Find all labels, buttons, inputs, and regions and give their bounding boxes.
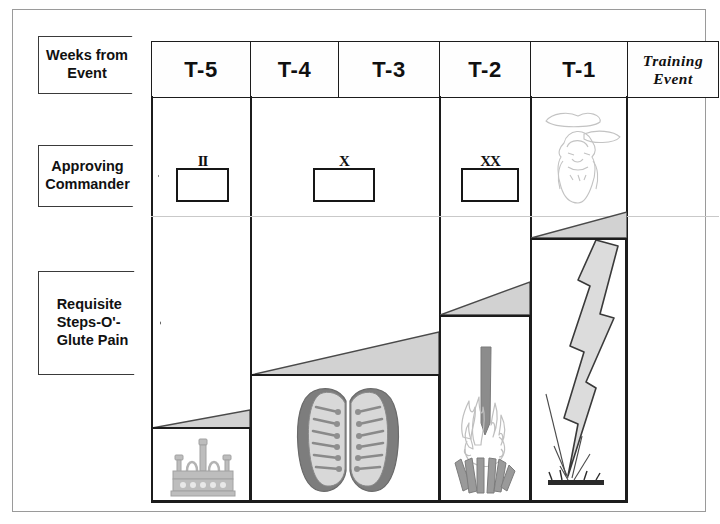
- row-label-approving-text: Approving Commander: [45, 158, 152, 193]
- row-label-weeks-from-event: Weeks from Event: [38, 36, 158, 94]
- commander-insignia-t2: XX: [461, 153, 519, 170]
- deity-in-clouds-sketch-icon: [534, 101, 624, 213]
- column-header-t1-label: T-1: [562, 57, 595, 83]
- page-frame: Weeks from Event Approving Commander Req…: [12, 9, 706, 512]
- matrix-header-row: T-5 T-4 T-3 T-2 T-1 Training Event: [151, 41, 719, 98]
- ramp-wedge-t2: [440, 281, 530, 316]
- column-header-t4: T-4: [250, 41, 339, 98]
- step-image-box-t2: [439, 315, 531, 502]
- column-header-training-event-label: Training Event: [643, 52, 703, 88]
- column-header-t2: T-2: [439, 41, 531, 98]
- column-header-t1: T-1: [530, 41, 628, 98]
- candelabra-icon: [167, 437, 239, 499]
- column-header-t2-label: T-2: [468, 57, 501, 83]
- row-label-requisite-steps: Requisite Steps-O'- Glute Pain: [38, 271, 161, 375]
- row-label-approving-commander: Approving Commander: [38, 145, 159, 207]
- row-label-requisite-text: Requisite Steps-O'- Glute Pain: [45, 296, 155, 349]
- commander-box-t2: [461, 168, 519, 202]
- ramp-wedge-t1: [531, 211, 627, 239]
- step-image-box-t4-t3: [250, 374, 440, 502]
- commander-insignia-t4-t3: X: [313, 153, 375, 170]
- row-label-weeks-text: Weeks from Event: [46, 47, 150, 82]
- step-image-box-t1: [530, 238, 627, 502]
- column-header-t3: T-3: [338, 41, 440, 98]
- commander-box-t5: [176, 168, 229, 202]
- column-header-t4-label: T-4: [278, 57, 311, 83]
- column-header-t5: T-5: [151, 41, 251, 98]
- grid-vline-t4-t3: [338, 96, 340, 97]
- ramp-wedge-t4-t3: [251, 331, 439, 376]
- lightning-bolt-icon: [538, 240, 626, 502]
- commander-box-t4-t3: [313, 168, 375, 202]
- grid-divider-commander-band: [151, 216, 719, 217]
- boots-pair-icon: [290, 381, 406, 497]
- column-header-t3-label: T-3: [372, 57, 405, 83]
- column-header-training-event: Training Event: [627, 41, 719, 98]
- commander-insignia-t5: II: [176, 153, 229, 170]
- step-image-box-t5: [151, 427, 251, 502]
- campfire-icon: [449, 345, 525, 497]
- ramp-wedge-t5: [152, 409, 250, 429]
- timeline-matrix: T-5 T-4 T-3 T-2 T-1 Training Event II X …: [151, 41, 719, 503]
- column-header-t5-label: T-5: [184, 57, 217, 83]
